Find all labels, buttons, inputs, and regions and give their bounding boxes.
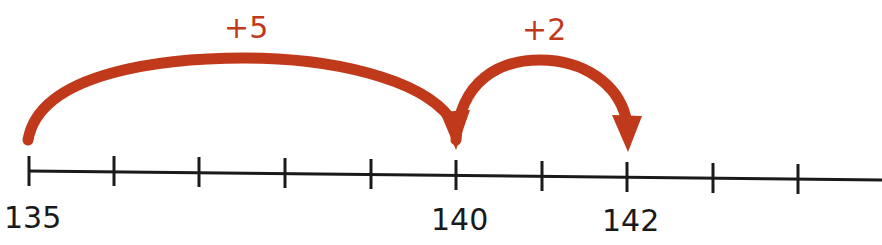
arrowhead-icon [612, 115, 642, 152]
jump-arrow-plus-5 [28, 58, 450, 140]
label-142: 142 [602, 203, 659, 238]
label-135: 135 [4, 200, 61, 235]
jump-arrow-plus-2 [456, 60, 626, 140]
label-140: 140 [431, 202, 488, 237]
number-line-diagram: 135 140 142 +5 +2 [0, 0, 882, 245]
jump-label-plus-2: +2 [522, 12, 566, 47]
jump-label-plus-5: +5 [224, 10, 268, 45]
